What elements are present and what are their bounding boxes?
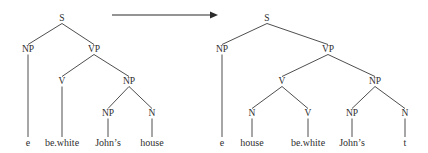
tree-branch — [252, 87, 282, 109]
tree-branch — [222, 24, 267, 45]
derivation-figure: SNPVPVNPNPNebe.whiteJohn’shouseSNPVPVNPN… — [0, 0, 428, 153]
tree-branch — [375, 87, 405, 109]
tree-node-n: N — [402, 108, 409, 118]
tree-node-vp: VP — [88, 44, 100, 54]
tree-node-s: S — [264, 13, 269, 23]
leaf-stems-layer — [28, 55, 405, 138]
tree-leaf-word: house — [140, 137, 164, 148]
tree-edges-layer — [28, 24, 405, 109]
tree-branch — [62, 24, 94, 45]
node-labels-layer: SNPVPVNPNPNebe.whiteJohn’shouseSNPVPVNPN… — [22, 13, 409, 148]
figure-canvas: SNPVPVNPNPNebe.whiteJohn’shouseSNPVPVNPN… — [0, 0, 428, 153]
tree-node-n: N — [249, 108, 256, 118]
tree-branch — [282, 87, 308, 109]
tree-branch — [352, 87, 375, 109]
transformation-arrow — [112, 11, 218, 18]
tree-leaf-word: be.white — [291, 137, 326, 148]
tree-branch — [62, 55, 94, 77]
tree-leaf-word: t — [404, 137, 407, 148]
tree-branch — [94, 55, 129, 77]
tree-node-v: V — [279, 76, 286, 86]
tree-branch — [129, 87, 152, 109]
tree-branch — [282, 55, 328, 77]
tree-branch — [108, 87, 129, 109]
tree-node-np: NP — [369, 76, 381, 86]
tree-node-n: N — [149, 108, 156, 118]
tree-leaf-word: John’s — [95, 137, 121, 148]
arrow-head-icon — [210, 11, 218, 18]
tree-leaf-word: be.white — [45, 137, 80, 148]
tree-node-vp: VP — [322, 44, 334, 54]
tree-branch — [328, 55, 375, 77]
tree-node-s: S — [59, 13, 64, 23]
tree-node-v: V — [59, 76, 66, 86]
tree-node-np: NP — [102, 108, 114, 118]
tree-node-np: NP — [216, 44, 228, 54]
tree-node-np: NP — [123, 76, 135, 86]
tree-node-np: NP — [22, 44, 34, 54]
tree-branch — [267, 24, 328, 45]
tree-leaf-word: e — [26, 137, 31, 148]
tree-leaf-word: e — [220, 137, 225, 148]
tree-leaf-word: John’s — [339, 137, 365, 148]
tree-node-v: V — [305, 108, 312, 118]
tree-leaf-word: house — [240, 137, 264, 148]
tree-node-np: NP — [346, 108, 358, 118]
tree-branch — [28, 24, 62, 45]
